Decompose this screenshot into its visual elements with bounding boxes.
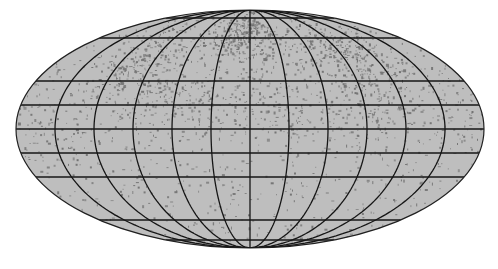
sky-map	[0, 0, 498, 269]
mollweide-projection	[0, 0, 498, 269]
